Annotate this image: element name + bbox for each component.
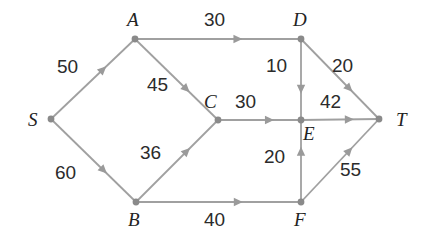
node-label-t: T — [396, 110, 407, 129]
edge-s-a — [51, 39, 135, 119]
arrowhead-c-e-icon — [265, 116, 274, 124]
node-label-s: S — [28, 110, 38, 129]
node-d — [298, 36, 305, 43]
arrowhead-f-e-icon — [297, 147, 305, 156]
node-b — [133, 199, 140, 206]
edge-weight-s-b: 60 — [55, 163, 76, 182]
node-t — [376, 116, 383, 123]
graph-diagram: SABCDEFT 506030453640301020422055 — [0, 0, 421, 248]
edge-weight-b-f: 40 — [204, 210, 225, 229]
node-label-e: E — [303, 124, 315, 143]
edge-weight-c-e: 30 — [235, 92, 256, 111]
arrowhead-a-d-icon — [233, 35, 242, 43]
node-label-c: C — [204, 92, 217, 111]
edge-weight-f-e: 20 — [264, 147, 285, 166]
edge-weight-d-e: 10 — [266, 56, 287, 75]
node-label-b: B — [128, 210, 140, 229]
node-label-d: D — [293, 10, 307, 29]
edge-weight-a-d: 30 — [204, 10, 225, 29]
edge-s-b — [51, 119, 136, 202]
edge-weight-b-c: 36 — [140, 143, 161, 162]
arrowhead-e-t-icon — [345, 115, 354, 123]
arrowhead-b-f-icon — [234, 198, 243, 206]
edge-weight-f-t: 55 — [340, 160, 361, 179]
arrowhead-d-e-icon — [297, 85, 305, 94]
node-label-a: A — [127, 10, 139, 29]
edge-weight-d-t: 20 — [332, 56, 353, 75]
node-f — [298, 199, 305, 206]
edge-weight-e-t: 42 — [320, 92, 341, 111]
edge-e-t — [301, 119, 379, 120]
node-label-f: F — [294, 210, 306, 229]
edge-weight-a-c: 45 — [147, 75, 168, 94]
edge-weight-s-a: 50 — [57, 57, 78, 76]
node-s — [48, 116, 55, 123]
node-a — [132, 36, 139, 43]
node-c — [215, 117, 222, 124]
